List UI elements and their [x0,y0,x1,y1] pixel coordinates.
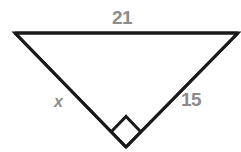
triangle-figure: 21 15 x [0,0,241,152]
triangle-outline [15,33,238,147]
label-side-x: x [54,94,63,110]
label-side-21: 21 [112,8,132,27]
label-side-15: 15 [181,90,201,109]
